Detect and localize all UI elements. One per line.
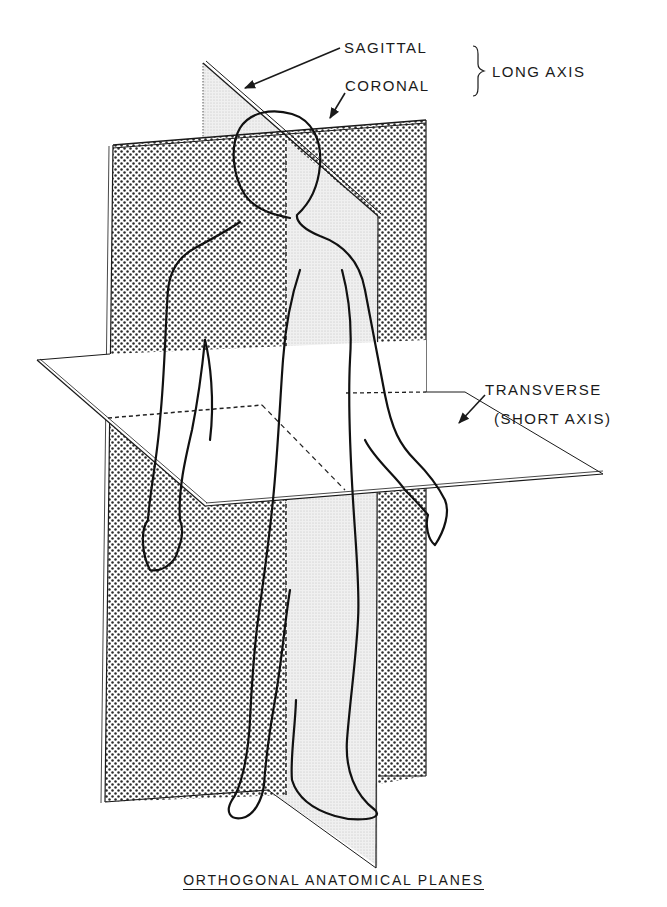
long-axis-brace bbox=[473, 46, 484, 96]
short-axis-label: (SHORT AXIS) bbox=[494, 410, 611, 427]
long-axis-label: LONG AXIS bbox=[492, 63, 586, 80]
figure-caption: ORTHOGONAL ANATOMICAL PLANES bbox=[0, 872, 667, 888]
sagittal-arrow bbox=[245, 48, 340, 88]
caption-text: ORTHOGONAL ANATOMICAL PLANES bbox=[183, 872, 484, 890]
transverse-label: TRANSVERSE bbox=[485, 381, 602, 398]
sagittal-label: SAGITTAL bbox=[344, 39, 427, 56]
coronal-label: CORONAL bbox=[345, 77, 430, 94]
anatomical-planes-diagram bbox=[0, 0, 667, 907]
coronal-arrow bbox=[330, 93, 345, 118]
